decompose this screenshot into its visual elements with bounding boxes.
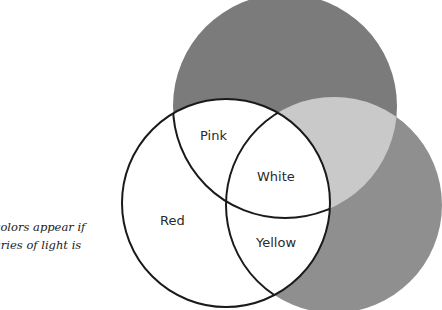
venn-diagram: Pink White Red Yellow (0, 0, 442, 310)
label-red: Red (160, 213, 185, 228)
label-yellow: Yellow (255, 235, 296, 250)
caption-line-1: colors appear if (0, 218, 150, 236)
caption: colors appear if aries of light is (0, 218, 150, 254)
label-white: White (257, 169, 295, 184)
label-pink: Pink (200, 128, 227, 143)
caption-line-2: aries of light is (0, 236, 150, 254)
